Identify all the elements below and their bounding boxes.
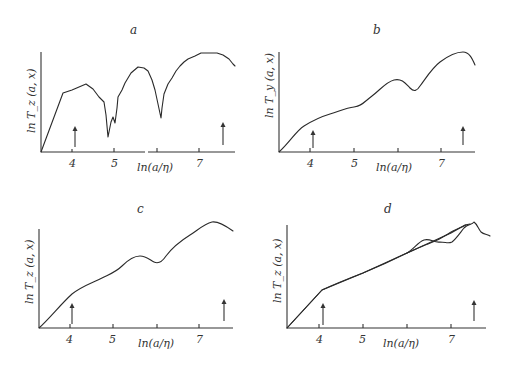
panel-d-tick-label-5: 5 xyxy=(359,333,366,346)
panel-b-curve xyxy=(279,52,475,152)
panel-a-title: a xyxy=(130,23,137,37)
panel-c-title: c xyxy=(137,202,144,216)
panel-b: b 4 5 7 ln(a/η) ln T_y (a, x) xyxy=(263,23,475,174)
panel-d-y-label: ln T_z (a, x) xyxy=(271,238,284,303)
panel-b-x-label: ln(a/η) xyxy=(376,161,412,174)
panel-a-arrow-left-icon xyxy=(73,126,78,147)
panel-b-y-label: ln T_y (a, x) xyxy=(263,53,276,118)
panel-c-y-label: ln T_z (a, x) xyxy=(23,239,36,304)
panel-b-title: b xyxy=(373,23,381,37)
panel-b-tick-label-5: 5 xyxy=(351,157,358,170)
panel-d-tick-label-7: 7 xyxy=(448,333,455,346)
panel-d-arrow-left-icon xyxy=(321,303,326,325)
panel-c-tick-label-5: 5 xyxy=(109,333,116,346)
panel-d-arrow-right-icon xyxy=(472,300,477,321)
panel-d-data-curve xyxy=(287,222,490,328)
panel-b-arrow-left-icon xyxy=(311,130,316,148)
figure: a 4 5 7 ln(a/η) ln T_z (a, x) b xyxy=(0,0,511,373)
panel-a-tick-label-7: 7 xyxy=(196,157,203,170)
panel-a-arrow-right-icon xyxy=(221,122,226,145)
panel-c-tick-label-4: 4 xyxy=(65,333,73,346)
panel-c-arrow-right-icon xyxy=(222,299,227,321)
panel-b-tick-label-4: 4 xyxy=(306,157,314,170)
panel-d-tick-label-4: 4 xyxy=(315,333,323,346)
panel-a: a 4 5 7 ln(a/η) ln T_z (a, x) xyxy=(25,23,235,174)
panel-c-curve xyxy=(39,222,233,328)
panel-c-tick-label-7: 7 xyxy=(196,333,203,346)
panel-a-x-label: ln(a/η) xyxy=(137,161,173,174)
panel-c-x-label: ln(a/η) xyxy=(138,337,174,350)
panel-c-arrow-left-icon xyxy=(70,303,75,324)
panel-c: c 4 5 7 ln(a/η) ln T_z (a, x) xyxy=(23,202,233,350)
panel-a-tick-label-5: 5 xyxy=(111,157,118,170)
panel-a-curve xyxy=(41,53,235,152)
panel-a-y-label: ln T_z (a, x) xyxy=(25,68,38,133)
panel-d-fit-line xyxy=(287,224,470,328)
panel-b-tick-label-7: 7 xyxy=(438,157,445,170)
panel-d-title: d xyxy=(384,202,392,216)
panel-d-x-label: ln(a/η) xyxy=(383,337,419,350)
panel-a-tick-label-4: 4 xyxy=(68,157,76,170)
panel-b-arrow-right-icon xyxy=(461,126,466,145)
panel-d: d 4 5 7 ln(a/η) ln T_z (a, x) xyxy=(271,202,490,350)
